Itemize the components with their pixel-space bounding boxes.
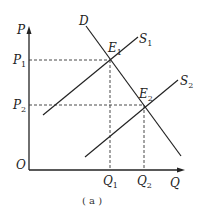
x-axis-arrow-icon: [177, 168, 185, 173]
demand-curve: [86, 26, 181, 156]
supply-demand-diagram: P Q O D S1 S2 E1 E2 P1 P2 Q1 Q2 ( a ): [0, 0, 198, 216]
q2-label: Q2: [137, 174, 152, 190]
origin-label: O: [16, 158, 26, 172]
q1-label: Q1: [103, 174, 118, 190]
supply-curve-s2: [85, 80, 178, 157]
y-axis-label: P: [16, 23, 26, 37]
y-axis-arrow-icon: [27, 26, 32, 34]
e2-label: E2: [138, 87, 153, 103]
p1-label: P1: [12, 53, 26, 69]
demand-label: D: [78, 14, 89, 28]
s2-label: S2: [180, 74, 193, 90]
e1-label: E1: [107, 41, 122, 57]
p2-label: P2: [12, 98, 26, 114]
figure-caption: ( a ): [82, 195, 102, 206]
supply-curve-s1: [43, 37, 138, 115]
s1-label: S1: [139, 32, 152, 48]
x-axis-label: Q: [170, 176, 180, 190]
